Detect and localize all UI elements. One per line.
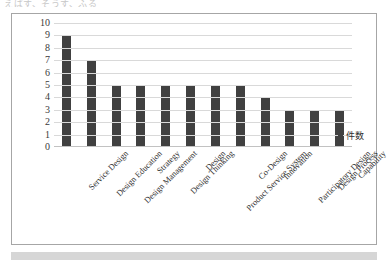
x-axis-line [54,146,352,147]
bar[interactable] [211,85,220,147]
chart-frame: 109876543210 Service DesignDesign Educat… [11,13,377,245]
gridline-3 [54,110,352,111]
y-axis-tick-10: 10 [40,18,50,28]
y-axis: 109876543210 [30,18,50,152]
gridline-9 [54,35,352,36]
bottom-gray-bar [11,252,377,260]
bar[interactable] [112,85,121,147]
bar[interactable] [186,85,195,147]
bar[interactable] [161,85,170,147]
bar[interactable] [136,85,145,147]
top-caption: えばす、そうす、ふる [4,0,97,7]
gridline-1 [54,135,352,136]
gridline-6 [54,73,352,74]
gridline-10 [54,23,352,24]
y-axis-tick-2: 2 [45,117,50,127]
y-axis-tick-7: 7 [45,55,50,65]
bar[interactable] [62,35,71,147]
legend-swatch-icon [338,133,343,138]
gridline-2 [54,122,352,123]
gridline-5 [54,85,352,86]
bar[interactable] [285,110,294,147]
bar[interactable] [236,85,245,147]
bar[interactable] [310,110,319,147]
y-axis-tick-1: 1 [45,130,50,140]
y-axis-tick-3: 3 [45,105,50,115]
legend-label: 件数 [346,129,364,142]
y-axis-tick-9: 9 [45,30,50,40]
gridline-8 [54,48,352,49]
gridline-4 [54,97,352,98]
plot-area [54,23,352,147]
y-axis-tick-5: 5 [45,80,50,90]
gridline-7 [54,60,352,61]
chart-plot-wrapper: 109876543210 Service DesignDesign Educat… [12,14,376,244]
chart-legend: 件数 [338,129,364,142]
y-axis-tick-4: 4 [45,92,50,102]
x-axis-labels: Service DesignDesign EducationDesign Man… [54,149,352,244]
y-axis-tick-0: 0 [45,142,50,152]
y-axis-tick-8: 8 [45,43,50,53]
y-axis-tick-6: 6 [45,68,50,78]
